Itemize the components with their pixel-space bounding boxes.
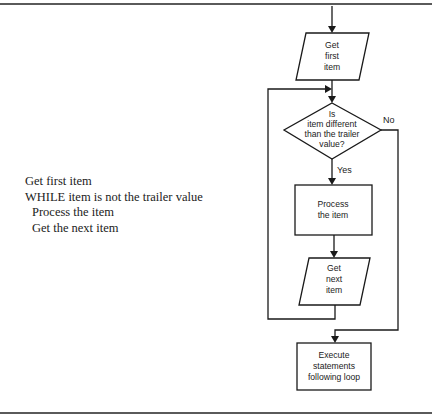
decision-line-2: item different xyxy=(307,119,357,129)
get-first-line-1: Get xyxy=(325,40,339,50)
process-line-2: the item xyxy=(318,210,349,220)
execute-line-1: Execute xyxy=(318,350,349,360)
decision-line-1: Is xyxy=(329,109,336,119)
yes-label: Yes xyxy=(337,165,352,175)
execute-line-3: following loop xyxy=(308,372,360,382)
no-label: No xyxy=(383,115,395,125)
get-next-line-2: next xyxy=(326,274,343,284)
flowchart: Get first item Is item different than th… xyxy=(0,0,432,416)
get-first-line-3: item xyxy=(324,62,340,72)
node-decision: Is item different than the trailer value… xyxy=(284,103,381,159)
node-process-item: Process the item xyxy=(295,185,372,235)
node-get-first-item: Get first item xyxy=(296,33,369,80)
entry-arrow xyxy=(328,6,336,33)
yes-branch-connector: Yes xyxy=(328,159,352,185)
node-get-next-item: Get next item xyxy=(299,258,370,305)
get-next-line-1: Get xyxy=(327,263,341,273)
process-line-1: Process xyxy=(317,199,348,209)
connector-process-to-next xyxy=(330,235,338,258)
node-execute-statements: Execute statements following loop xyxy=(297,343,371,390)
decision-line-4: value? xyxy=(319,139,345,149)
decision-line-3: than the trailer xyxy=(305,129,360,139)
get-next-line-3: item xyxy=(326,285,342,295)
get-first-line-2: first xyxy=(325,51,339,61)
execute-line-2: statements xyxy=(313,361,355,371)
connector-first-to-decision xyxy=(328,80,336,103)
